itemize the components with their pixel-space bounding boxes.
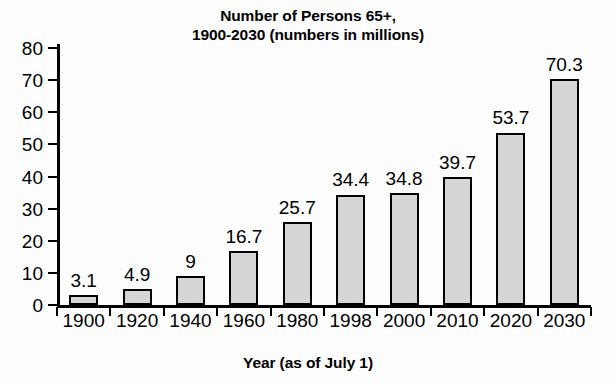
chart-title-line-1: Number of Persons 65+,	[0, 6, 616, 25]
y-axis-tick-label: 70	[22, 71, 43, 90]
y-axis-tick-label: 20	[22, 231, 43, 250]
x-axis-tick-label: 2020	[490, 311, 532, 331]
x-axis-tick-label: 1920	[116, 311, 158, 331]
x-axis-tick-label: 1940	[169, 311, 211, 331]
x-axis-tick	[376, 307, 378, 316]
x-axis-tick-label: 2030	[543, 311, 585, 331]
x-axis-title: Year (as of July 1)	[0, 354, 616, 372]
x-axis-tick-label: 2010	[436, 311, 478, 331]
bar-value-label: 34.4	[332, 170, 369, 189]
x-axis-tick	[163, 307, 165, 316]
y-axis-tick	[48, 304, 57, 306]
bar	[443, 177, 472, 305]
x-axis-tick-label: 2000	[383, 311, 425, 331]
x-axis-tick-label: 1980	[276, 311, 318, 331]
bar-value-label: 16.7	[225, 227, 262, 246]
y-axis-tick	[48, 176, 57, 178]
bar	[69, 295, 98, 305]
y-axis-line	[57, 44, 60, 306]
bar	[390, 193, 419, 305]
y-axis-tick	[48, 240, 57, 242]
y-axis-tick-label: 50	[22, 135, 43, 154]
bar	[123, 289, 152, 305]
y-axis-tick-label: 60	[22, 103, 43, 122]
y-axis-tick-label: 30	[22, 199, 43, 218]
y-axis-tick-label: 0	[32, 296, 43, 315]
y-axis-tick	[48, 272, 57, 274]
y-axis-tick	[48, 208, 57, 210]
y-axis-tick	[48, 79, 57, 81]
bar-value-label: 3.1	[70, 271, 96, 290]
y-axis-tick-label: 10	[22, 263, 43, 282]
bar	[176, 276, 205, 305]
chart-title: Number of Persons 65+, 1900-2030 (number…	[0, 6, 616, 44]
x-axis-tick-label: 1960	[223, 311, 265, 331]
bar	[336, 195, 365, 306]
bar-value-label: 70.3	[546, 55, 583, 74]
y-axis-tick	[48, 111, 57, 113]
x-axis-tick	[483, 307, 485, 316]
x-axis-tick	[430, 307, 432, 316]
chart-title-line-2: 1900-2030 (numbers in millions)	[0, 25, 616, 44]
bar	[229, 251, 258, 305]
bar	[283, 222, 312, 305]
x-axis-tick	[590, 307, 592, 316]
x-axis-tick	[56, 307, 58, 316]
x-axis-tick	[323, 307, 325, 316]
y-axis-tick	[48, 143, 57, 145]
bar-value-label: 25.7	[279, 198, 316, 217]
x-axis-tick	[537, 307, 539, 316]
x-axis-tick	[216, 307, 218, 316]
bar-value-label: 34.8	[386, 169, 423, 188]
y-axis-tick-label: 40	[22, 167, 43, 186]
x-axis-tick-label: 1998	[330, 311, 372, 331]
bar	[496, 133, 525, 306]
bar-chart: Number of Persons 65+, 1900-2030 (number…	[0, 0, 616, 383]
bar-value-label: 39.7	[439, 153, 476, 172]
plot-area: 01020304050607080 1900192019401960198019…	[57, 48, 591, 305]
bar-value-label: 4.9	[124, 265, 150, 284]
y-axis-tick	[48, 47, 57, 49]
bar	[550, 79, 579, 305]
x-axis-tick	[270, 307, 272, 316]
x-axis-tick-label: 1900	[63, 311, 105, 331]
bar-value-label: 53.7	[492, 108, 529, 127]
bar-value-label: 9	[185, 252, 196, 271]
y-axis-tick-label: 80	[22, 39, 43, 58]
x-axis-tick	[109, 307, 111, 316]
